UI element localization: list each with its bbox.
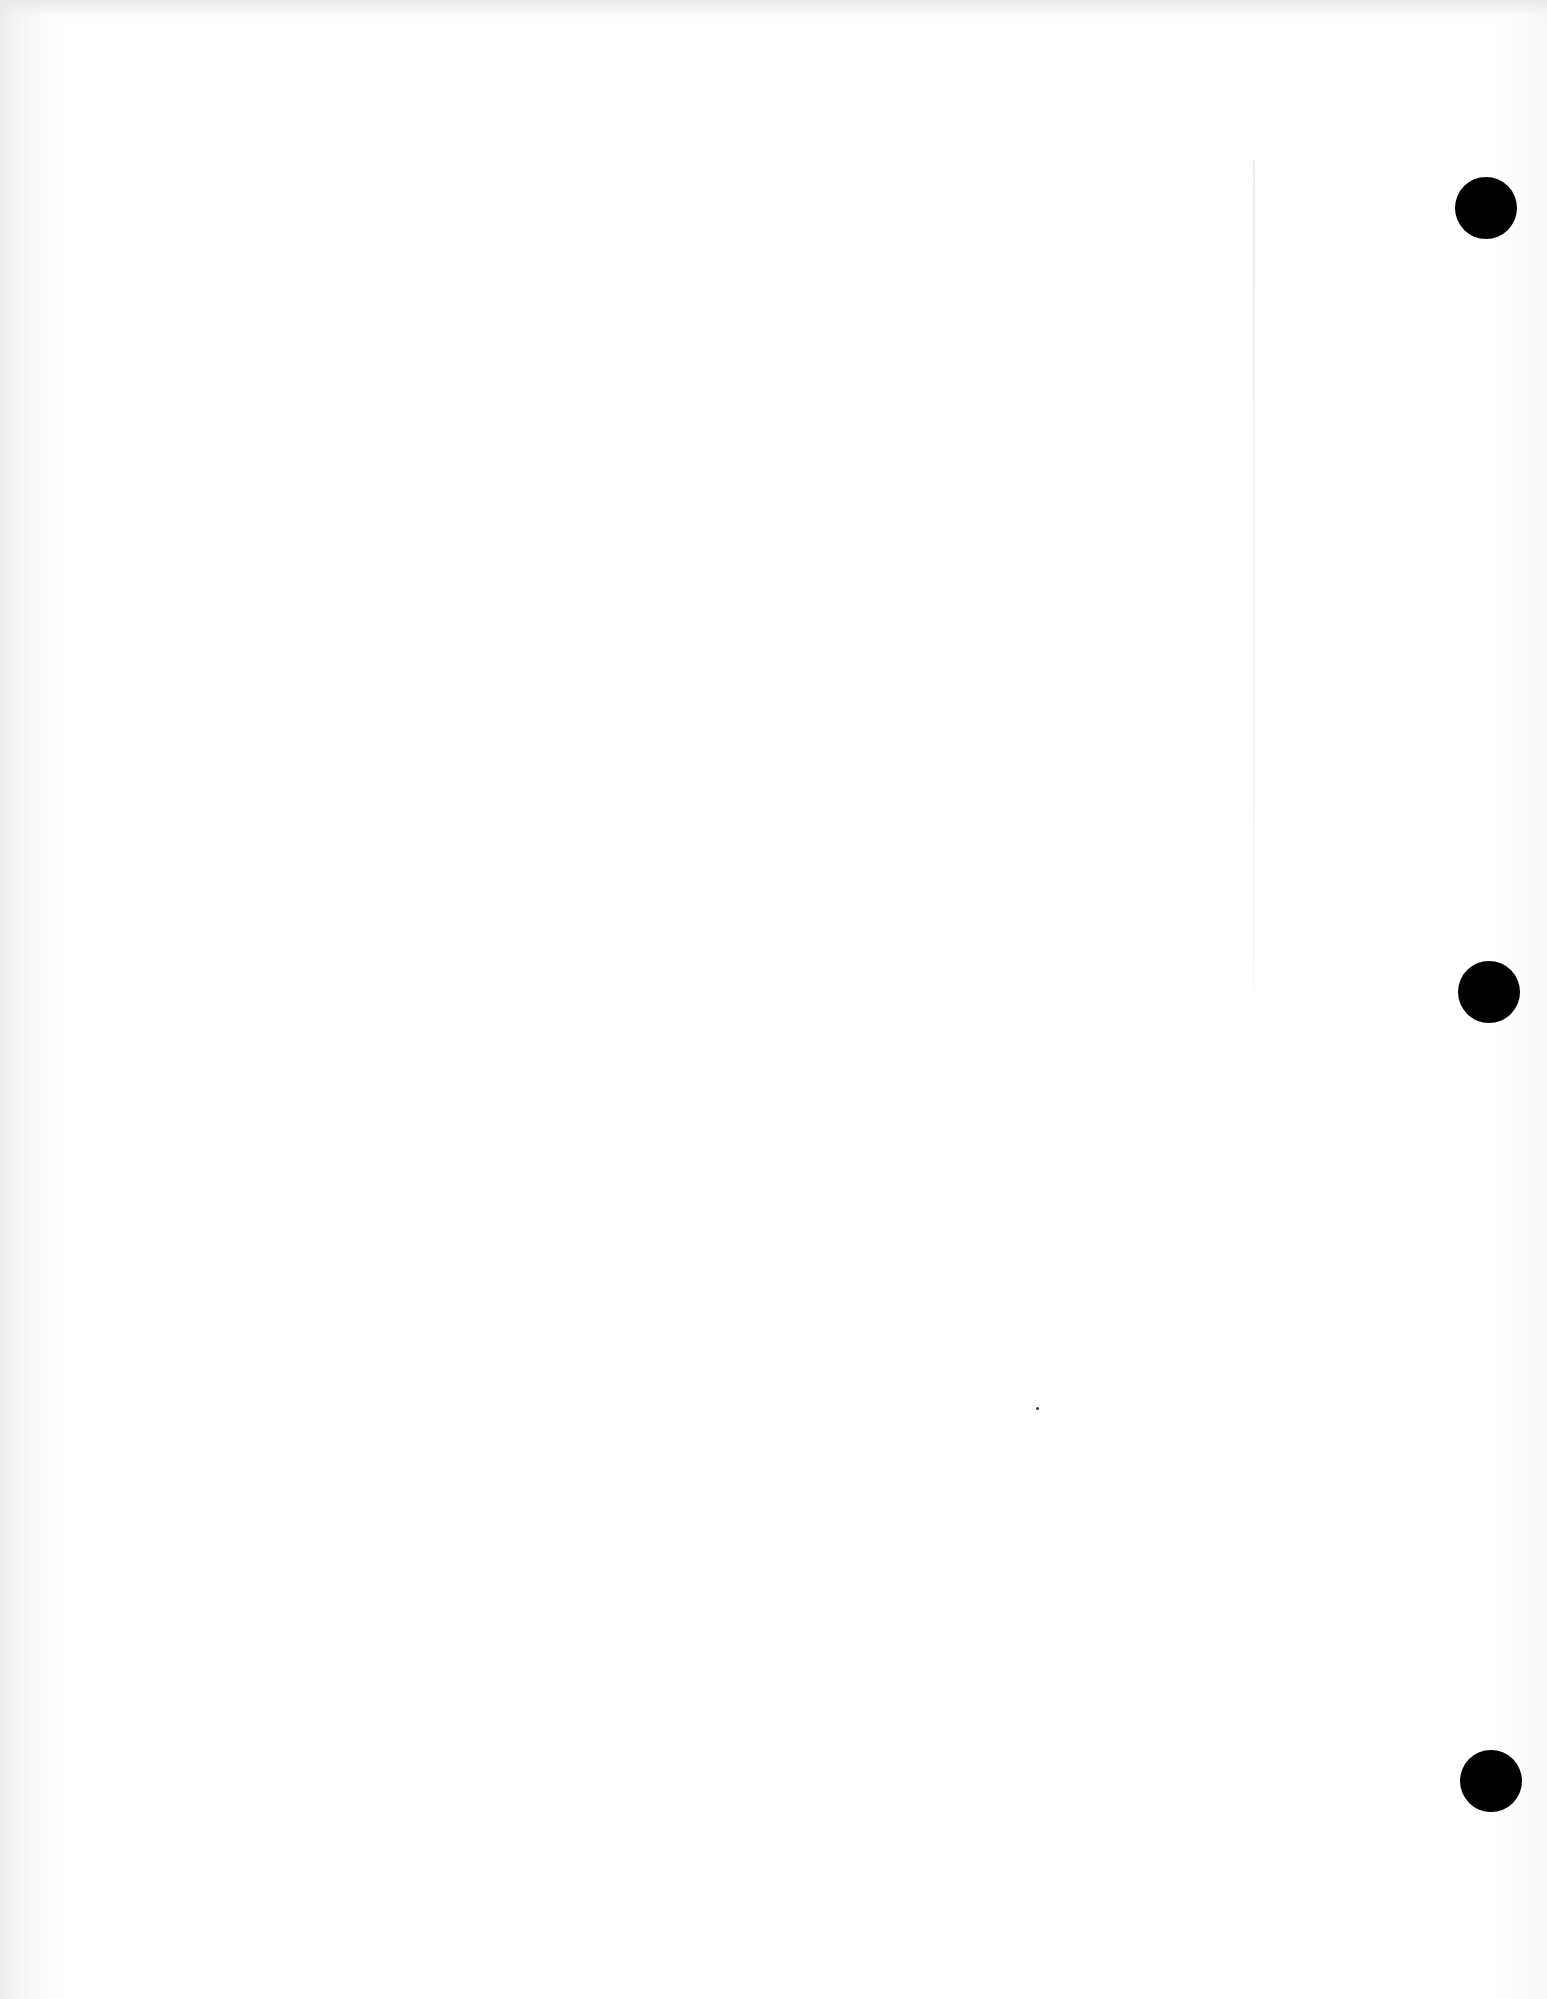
punch-hole-top (1455, 177, 1517, 239)
scan-top-edge-shadow (0, 0, 1547, 18)
dust-speck (1036, 1407, 1039, 1410)
punch-hole-bottom (1460, 1750, 1522, 1812)
punch-hole-middle (1458, 961, 1520, 1023)
blank-page (0, 0, 1547, 1999)
faint-vertical-line (1253, 160, 1255, 990)
